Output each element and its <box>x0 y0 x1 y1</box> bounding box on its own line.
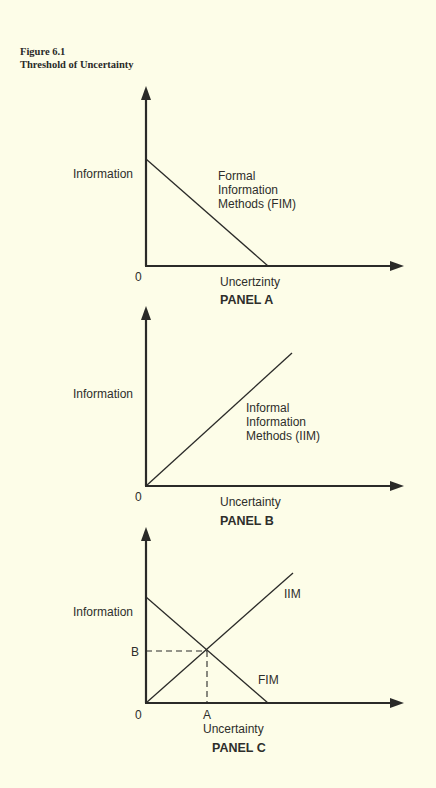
iim-label: IIM <box>284 587 301 601</box>
x-axis-arrow-icon <box>390 481 404 491</box>
iim-label-line-1: Informal <box>246 401 289 415</box>
x-axis-arrow-icon <box>390 698 404 708</box>
fim-label-line-3: Methods (FIM) <box>218 197 296 211</box>
panel-a-title: PANEL A <box>220 293 273 307</box>
origin-label: 0 <box>135 270 142 284</box>
panel-c: Information 0 A B Uncertainty IIM FIM PA… <box>73 527 404 755</box>
origin-label: 0 <box>135 490 142 504</box>
y-axis-label: Information <box>73 605 133 619</box>
x-axis-arrow-icon <box>390 261 404 271</box>
figure-diagram: Information 0 Uncertzinty Formal Informa… <box>0 0 436 788</box>
x-axis-label: Uncertainty <box>220 495 281 509</box>
y-axis-label: Information <box>73 167 133 181</box>
y-axis-arrow-icon <box>141 86 151 100</box>
panel-a: Information 0 Uncertzinty Formal Informa… <box>73 86 404 307</box>
y-axis-arrow-icon <box>141 527 151 541</box>
x-axis-label: Uncertainty <box>203 722 264 736</box>
fim-label: FIM <box>258 673 279 687</box>
a-marker-label: A <box>203 708 211 722</box>
iim-label-line-3: Methods (IIM) <box>246 429 320 443</box>
iim-label-line-2: Information <box>246 415 306 429</box>
b-marker-label: B <box>131 645 139 659</box>
panel-b: Information 0 Uncertainty Informal Infor… <box>73 306 404 528</box>
panel-c-title: PANEL C <box>212 741 266 755</box>
x-axis-label: Uncertzinty <box>220 275 280 289</box>
fim-label-line-2: Information <box>218 183 278 197</box>
y-axis-arrow-icon <box>141 306 151 320</box>
panel-b-title: PANEL B <box>220 514 274 528</box>
fim-label-line-1: Formal <box>218 169 255 183</box>
y-axis-label: Information <box>73 387 133 401</box>
origin-label: 0 <box>135 708 142 722</box>
